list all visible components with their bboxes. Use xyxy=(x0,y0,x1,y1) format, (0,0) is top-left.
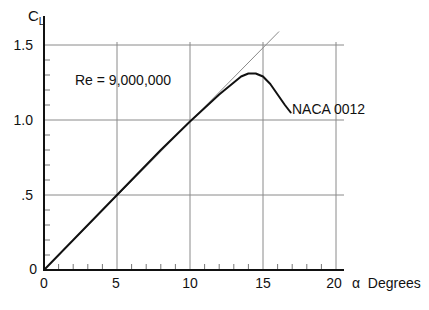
airfoil-name-annotation: NACA 0012 xyxy=(292,102,365,116)
lift-curve-chart xyxy=(0,0,429,310)
x-tick-label: 20 xyxy=(319,276,349,290)
x-tick-label: 10 xyxy=(175,276,205,290)
x-tick-label: 0 xyxy=(29,276,59,290)
minor-ticks xyxy=(44,60,321,270)
reynolds-number-annotation: Re = 9,000,000 xyxy=(75,73,171,87)
y-tick-label: .5 xyxy=(3,188,33,202)
x-tick-label: 5 xyxy=(101,276,131,290)
x-axis-label: α Degrees xyxy=(352,276,421,290)
data-series xyxy=(44,32,291,271)
y-tick-label: 0 xyxy=(7,262,37,276)
naca-0012-lift-curve xyxy=(44,74,291,271)
y-axis-label: CL xyxy=(28,8,44,27)
y-axis-label-sub: L xyxy=(39,16,45,27)
y-axis-label-main: C xyxy=(28,7,39,24)
axes xyxy=(43,16,344,271)
y-tick-label: 1.5 xyxy=(3,38,33,52)
x-tick-label: 15 xyxy=(248,276,278,290)
y-tick-label: 1.0 xyxy=(3,113,33,127)
